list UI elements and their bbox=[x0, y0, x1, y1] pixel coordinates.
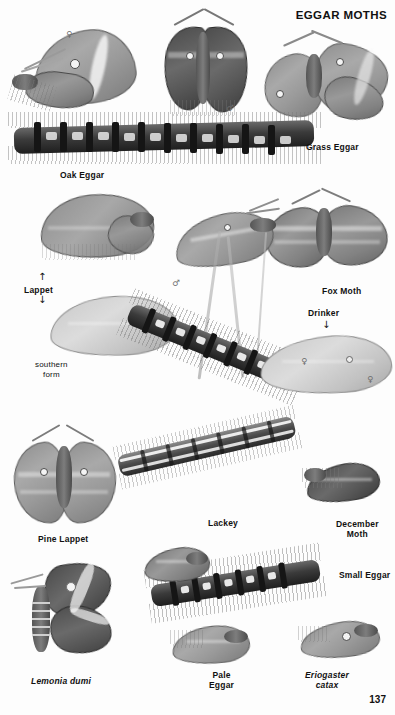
figure-small-eggar-moth bbox=[142, 540, 214, 588]
species-label-december-moth: December Moth bbox=[336, 519, 379, 539]
sex-symbol-oak-eggar-male-icon: ♂ bbox=[226, 104, 234, 113]
figure-pine-lappet-moth bbox=[12, 420, 116, 530]
sex-symbol-drinker-male-icon: ♂ bbox=[172, 279, 180, 288]
sex-symbol-drinker-female-icon: ♀ bbox=[367, 375, 373, 384]
species-label-drinker: Drinker bbox=[308, 308, 339, 318]
species-label-small-eggar: Small Eggar bbox=[339, 570, 390, 580]
species-label-southern-form: southern form bbox=[35, 360, 68, 379]
species-label-oak-eggar: Oak Eggar bbox=[60, 170, 104, 180]
species-label-lackey: Lackey bbox=[208, 518, 238, 528]
species-label-lemonia-dumi: Lemonia dumi bbox=[31, 676, 91, 686]
species-label-fox-moth: Fox Moth bbox=[322, 286, 361, 296]
page-title: EGGAR MOTHS bbox=[296, 9, 387, 21]
figure-pale-eggar-moth bbox=[168, 618, 254, 670]
species-label-pine-lappet: Pine Lappet bbox=[38, 534, 88, 544]
figure-lappet-moth bbox=[36, 186, 158, 272]
species-label-pale-eggar: Pale Eggar bbox=[209, 670, 234, 690]
figure-drinker-female-wing bbox=[258, 330, 392, 396]
figure-december-moth-moth bbox=[302, 450, 384, 512]
sex-symbol-fox-moth-female-icon: ♀ bbox=[301, 357, 307, 366]
field-guide-plate: EGGAR MOTHS bbox=[0, 0, 395, 715]
page-number: 137 bbox=[369, 694, 386, 705]
pointer-drinker-arrow-down-icon: ↓ bbox=[322, 320, 330, 330]
pointer-lappet-arrow-up-icon: ↑ bbox=[38, 272, 46, 282]
species-label-eriogaster-catax: Eriogaster catax bbox=[305, 670, 349, 690]
figure-lackey-caterpillar bbox=[110, 393, 308, 507]
species-label-grass-eggar: Grass Eggar bbox=[306, 142, 359, 152]
figure-eriogaster-catax-moth bbox=[296, 614, 384, 666]
figure-oak-eggar-caterpillar bbox=[8, 112, 322, 166]
sex-symbol-oak-eggar-female-icon: ♀ bbox=[66, 30, 72, 39]
figure-oak-eggar-male-moth bbox=[150, 8, 258, 120]
figure-lemonia-dumi-moth bbox=[8, 556, 116, 662]
pointer-lappet-arrow-down-icon: ↓ bbox=[38, 295, 46, 305]
figure-grass-eggar-moth bbox=[258, 26, 390, 126]
